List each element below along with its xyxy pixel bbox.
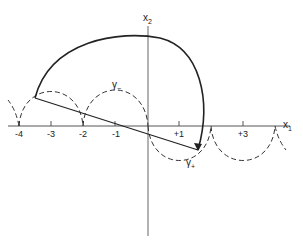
x2-label-sub: 2 — [148, 18, 152, 25]
gamma-minus-sub: − — [117, 85, 121, 92]
gamma-plus-label: γ+ — [186, 158, 195, 170]
x2-axis-label: x2 — [143, 13, 152, 25]
tick-label: -3 — [47, 130, 55, 139]
switching-line — [35, 98, 198, 150]
tick-label: -2 — [79, 130, 87, 139]
x1-ticks — [19, 121, 243, 126]
gamma-plus-curve — [148, 126, 286, 161]
tick-label: -1 — [112, 130, 120, 139]
tick-label: +3 — [238, 130, 248, 139]
x1-axis-label: x1 — [283, 120, 292, 132]
gamma-minus-label: γ− — [112, 80, 121, 92]
tick-label: -4 — [15, 130, 23, 139]
gamma-minus-curve — [8, 90, 148, 126]
phase-plane-diagram — [0, 0, 303, 245]
x1-label-sub: 1 — [288, 125, 292, 132]
tick-label: +1 — [174, 130, 184, 139]
gamma-plus-sub: + — [191, 163, 195, 170]
